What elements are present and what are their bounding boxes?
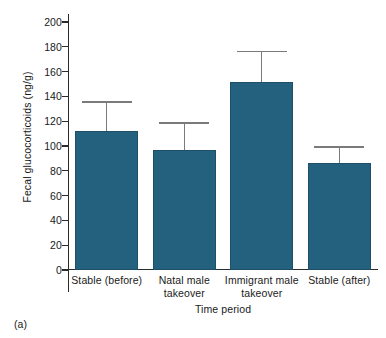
y-axis-tick-label: 120 xyxy=(28,116,62,126)
error-bar xyxy=(153,122,216,149)
y-axis-tick xyxy=(62,145,68,146)
error-bar-stem xyxy=(106,101,107,131)
x-axis-category-label-line: Stable (after) xyxy=(301,274,379,287)
y-axis-tick xyxy=(62,269,68,270)
y-axis-tick xyxy=(62,96,68,97)
error-bar xyxy=(75,101,138,131)
y-axis-tick-label: 160 xyxy=(28,67,62,77)
error-bar-cap xyxy=(159,122,209,124)
y-axis-tick-label: 140 xyxy=(28,91,62,101)
bar xyxy=(230,82,293,270)
x-axis-category-label: Natal maletakeover xyxy=(146,274,224,299)
y-axis-tick-labels: 020406080100120140160180200 xyxy=(28,0,62,338)
error-bar-stem xyxy=(184,122,185,149)
y-axis-tick-label: 100 xyxy=(28,141,62,151)
y-axis-tick-label: 40 xyxy=(28,215,62,225)
y-axis-tick-label: 180 xyxy=(28,42,62,52)
y-axis-tick-label: 80 xyxy=(28,166,62,176)
y-axis-tick-label: 60 xyxy=(28,191,62,201)
y-axis-tick xyxy=(62,121,68,122)
error-bar xyxy=(308,146,371,163)
x-axis-title: Time period xyxy=(68,303,378,315)
panel-caption: (a) xyxy=(14,318,27,330)
bar xyxy=(153,150,216,270)
x-axis-category-label: Stable (after) xyxy=(301,274,379,287)
y-axis-tick xyxy=(62,170,68,171)
error-bar-stem xyxy=(339,146,340,163)
y-axis-tick xyxy=(62,245,68,246)
x-axis-category-label: Immigrant maletakeover xyxy=(223,274,301,299)
y-axis-tick xyxy=(62,195,68,196)
error-bar-cap xyxy=(237,51,287,53)
x-axis-category-label-line: takeover xyxy=(223,287,301,300)
x-axis-category-label: Stable (before) xyxy=(68,274,146,287)
figure-panel: Fecal glucocorticoids (ng/g) 02040608010… xyxy=(0,0,386,338)
y-axis-tick xyxy=(62,71,68,72)
y-axis-tick xyxy=(62,220,68,221)
y-axis-tick xyxy=(62,21,68,22)
y-axis-tick-label: 200 xyxy=(28,17,62,27)
y-axis-tick xyxy=(62,46,68,47)
bar xyxy=(75,131,138,270)
error-bar-cap xyxy=(82,101,132,103)
plot-area xyxy=(68,22,378,270)
error-bar-stem xyxy=(261,51,262,82)
x-axis-category-label-line: Natal male xyxy=(146,274,224,287)
x-axis-category-label-line: Immigrant male xyxy=(223,274,301,287)
error-bar xyxy=(230,51,293,82)
x-axis-category-label-line: Stable (before) xyxy=(68,274,146,287)
bar xyxy=(308,163,371,270)
y-axis-line xyxy=(68,14,69,292)
y-axis-tick-label: 0 xyxy=(28,265,62,275)
y-axis-tick-label: 20 xyxy=(28,240,62,250)
x-axis-category-label-line: takeover xyxy=(146,287,224,300)
error-bar-cap xyxy=(314,146,364,148)
